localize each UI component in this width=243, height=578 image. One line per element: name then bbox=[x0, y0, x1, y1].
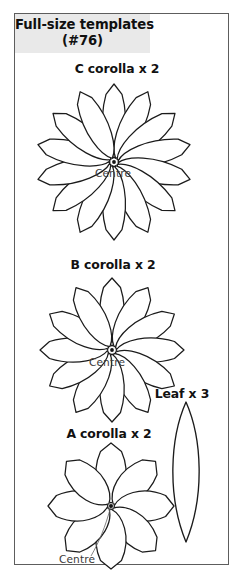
sheet-title-line-1: Full-size templates bbox=[15, 17, 150, 32]
motif-a-corolla bbox=[29, 440, 193, 572]
centre-label-a-corolla: Centre bbox=[59, 553, 95, 565]
sheet-title-line-2: (#76) bbox=[15, 33, 150, 48]
template-frame: Full-size templates (#76) C corolla x 2 … bbox=[14, 13, 229, 565]
caption-a-corolla: A corolla x 2 bbox=[15, 426, 203, 441]
centre-label-c-corolla: Centre bbox=[95, 167, 131, 179]
template-sheet: Full-size templates (#76) C corolla x 2 … bbox=[0, 0, 243, 578]
caption-c-corolla: C corolla x 2 bbox=[15, 61, 219, 76]
title-band: Full-size templates (#76) bbox=[15, 14, 150, 53]
motif-c-corolla bbox=[19, 77, 209, 237]
caption-b-corolla: B corolla x 2 bbox=[15, 257, 211, 272]
c-corolla-centre-dot bbox=[112, 160, 116, 164]
caption-leaf: Leaf x 3 bbox=[146, 386, 218, 401]
a-corolla-centre-dot bbox=[109, 504, 113, 508]
b-corolla-centre-dot bbox=[110, 348, 114, 352]
centre-label-b-corolla: Centre bbox=[89, 356, 125, 368]
